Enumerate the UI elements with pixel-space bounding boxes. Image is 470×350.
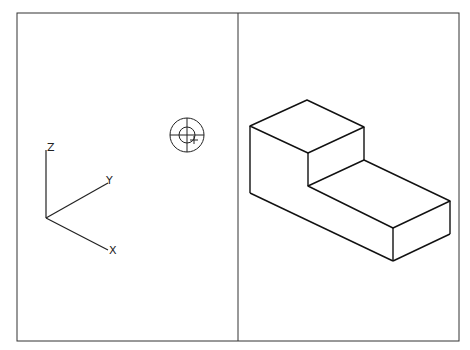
target-crosshair-icon <box>170 118 204 152</box>
axis-label-z: Z <box>47 141 55 154</box>
isometric-block-model[interactable] <box>250 100 450 261</box>
drawing-canvas[interactable]: Z Y X <box>0 0 470 350</box>
left-viewport[interactable]: Z Y X <box>46 118 204 257</box>
ucs-axis-icon <box>46 150 108 250</box>
axis-label-y: Y <box>105 174 113 187</box>
right-viewport[interactable] <box>250 100 450 261</box>
axis-label-x: X <box>109 244 117 257</box>
